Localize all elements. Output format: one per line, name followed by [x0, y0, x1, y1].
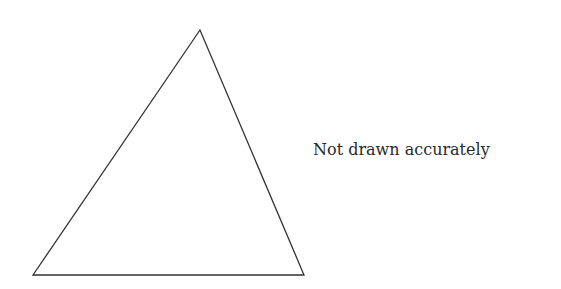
not-drawn-accurately-caption: Not drawn accurately: [313, 140, 490, 159]
triangle-shape: [33, 30, 304, 275]
